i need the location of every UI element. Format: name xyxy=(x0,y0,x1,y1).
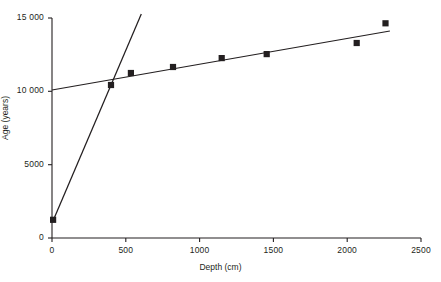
x-tick-label-2000: 2000 xyxy=(327,245,367,255)
data-point xyxy=(128,70,134,76)
y-tick-label-15000: 15 000 xyxy=(0,12,44,22)
data-point xyxy=(50,217,56,223)
data-point xyxy=(354,40,360,46)
x-tick-label-0: 0 xyxy=(32,245,72,255)
axis-lines xyxy=(52,18,421,238)
x-tick-label-500: 500 xyxy=(106,245,146,255)
chart-container: 15 000 10 000 5000 0 0 500 1000 1500 200… xyxy=(0,0,441,282)
data-point xyxy=(382,20,388,26)
data-point xyxy=(170,64,176,70)
x-tick-label-2500: 2500 xyxy=(401,245,441,255)
x-axis-ticks xyxy=(52,238,421,242)
y-tick-label-0: 0 xyxy=(0,232,44,242)
data-point xyxy=(108,82,114,88)
x-axis-title: Depth (cm) xyxy=(0,262,441,272)
data-point-markers xyxy=(50,20,389,223)
data-point xyxy=(264,51,270,57)
y-tick-label-10000: 10 000 xyxy=(0,85,44,95)
y-axis-title: Age (years) xyxy=(0,96,10,140)
y-tick-label-5000: 5000 xyxy=(0,159,44,169)
chart-plot-area xyxy=(0,0,441,282)
x-tick-label-1500: 1500 xyxy=(253,245,293,255)
y-axis-ticks xyxy=(48,18,52,238)
x-tick-label-1000: 1000 xyxy=(180,245,220,255)
data-point xyxy=(219,55,225,61)
steep-regression-line xyxy=(54,14,142,220)
